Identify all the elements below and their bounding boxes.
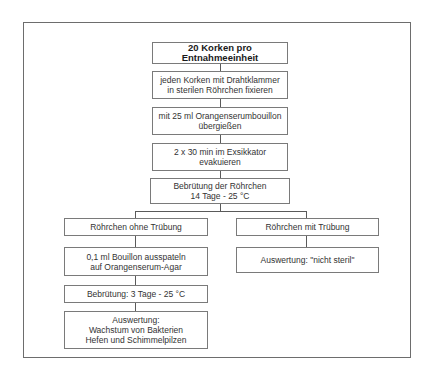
step-fix-corks: jeden Korken mit Drahtklammer in sterile… — [152, 71, 288, 99]
step-pour-bouillon: mit 25 ml Orangenserumbouillon übergieße… — [152, 107, 288, 135]
connector — [220, 64, 221, 71]
connector — [135, 211, 136, 218]
evaluation-growth: Auswertung: Wachstum von Bakterien Hefen… — [64, 311, 208, 349]
step-evacuate: 2 x 30 min im Exsikkator evakuieren — [152, 143, 288, 171]
connector — [220, 135, 221, 143]
connector — [135, 236, 136, 247]
connector — [135, 303, 136, 311]
step-incubate-tubes: Bebrütung der Röhrchen 14 Tage - 25 °C — [150, 178, 290, 204]
connector — [306, 236, 307, 247]
branch-connector — [135, 211, 307, 212]
step-spread-agar: 0,1 ml Bouillon ausspateln auf Orangense… — [64, 247, 208, 276]
step-incubate-3-days: Bebrütung: 3 Tage - 25 °C — [64, 285, 208, 303]
connector — [220, 171, 221, 178]
start-box: 20 Korken pro Entnahmeeinheit — [152, 42, 288, 64]
connector — [135, 276, 136, 285]
branch-left-label: Röhrchen ohne Trübung — [64, 218, 208, 236]
branch-right-label: Röhrchen mit Trübung — [236, 218, 379, 236]
connector — [306, 211, 307, 218]
connector — [220, 99, 221, 107]
evaluation-not-sterile: Auswertung: "nicht steril" — [236, 247, 379, 273]
connector — [220, 204, 221, 211]
